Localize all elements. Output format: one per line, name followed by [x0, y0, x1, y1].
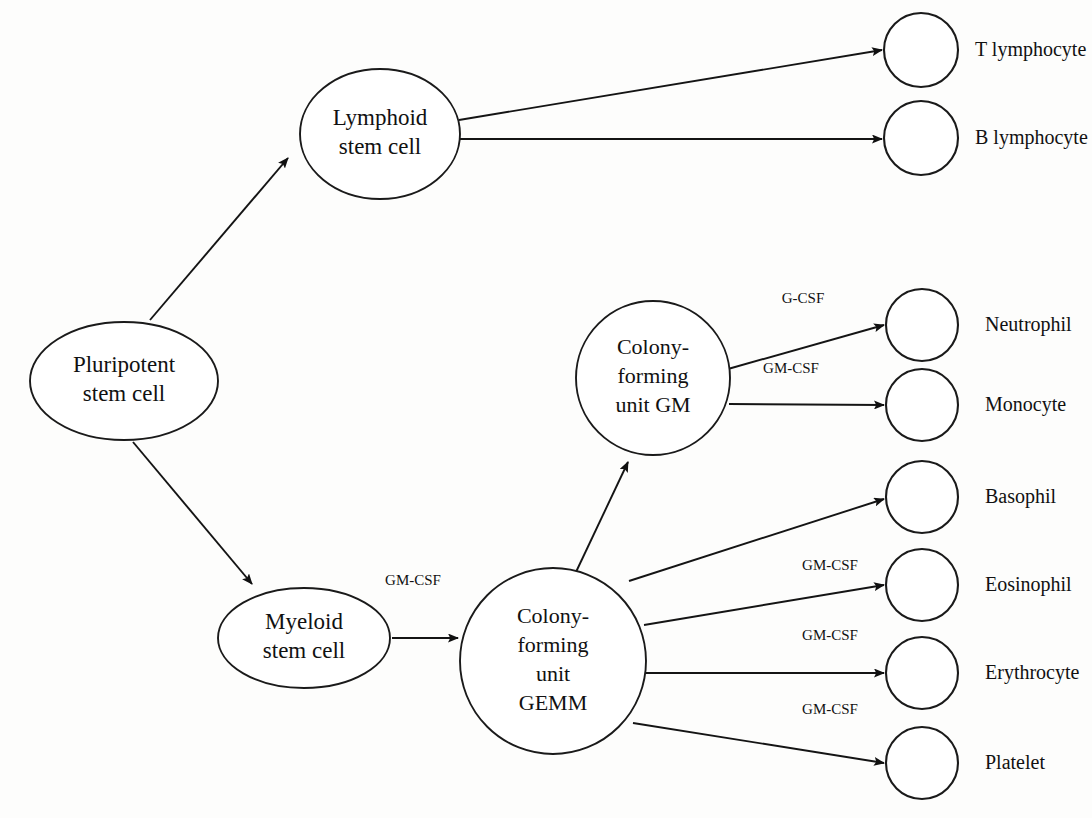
cell-platelet[interactable]: Platelet — [886, 727, 1045, 799]
node-label-pluripotent: stem cell — [83, 381, 165, 406]
cell-label-t-lymphocyte: T lymphocyte — [975, 38, 1086, 61]
cell-label-b-lymphocyte: B lymphocyte — [975, 126, 1088, 149]
cell-neutrophil[interactable]: Neutrophil — [886, 289, 1072, 361]
cell-circle-eosinophil — [886, 549, 958, 621]
cell-eosinophil[interactable]: Eosinophil — [886, 549, 1072, 621]
cell-label-neutrophil: Neutrophil — [985, 313, 1072, 336]
node-label-lymphoid: stem cell — [339, 134, 421, 159]
nodes-layer: Pluripotentstem cellLymphoidstem cellMye… — [30, 69, 730, 754]
edge-pluripotent-to-myeloid — [133, 442, 252, 584]
growth-factor-label-gemm-to-erythrocyte: GM-CSF — [802, 627, 858, 643]
node-label-cfu-gm: unit GM — [615, 392, 690, 417]
growth-factor-label-gm-to-monocyte: GM-CSF — [763, 360, 819, 376]
cell-circle-t-lymphocyte — [884, 13, 958, 87]
growth-factor-label-gm-to-neutrophil: G-CSF — [782, 290, 825, 306]
cell-circle-b-lymphocyte — [884, 101, 958, 175]
cell-t-lymphocyte[interactable]: T lymphocyte — [884, 13, 1086, 87]
growth-factor-label-gemm-to-eosinophil: GM-CSF — [802, 557, 858, 573]
cell-label-platelet: Platelet — [985, 751, 1045, 773]
cell-label-erythrocyte: Erythrocyte — [985, 661, 1080, 684]
node-label-pluripotent: Pluripotent — [73, 352, 176, 377]
node-label-cfu-gemm: forming — [518, 632, 589, 657]
cell-circle-platelet — [886, 727, 958, 799]
edge-pluripotent-to-lymphoid — [150, 158, 288, 320]
node-label-cfu-gemm: Colony- — [517, 603, 589, 628]
node-label-cfu-gm: forming — [618, 363, 689, 388]
edge-gm-to-monocyte — [729, 404, 884, 405]
cell-label-eosinophil: Eosinophil — [985, 573, 1072, 596]
node-label-cfu-gm: Colony- — [617, 334, 689, 359]
cells-layer: T lymphocyteB lymphocyteNeutrophilMonocy… — [884, 13, 1088, 799]
cell-basophil[interactable]: Basophil — [886, 461, 1057, 533]
node-label-myeloid: stem cell — [263, 638, 345, 663]
node-label-myeloid: Myeloid — [265, 609, 343, 634]
cell-label-basophil: Basophil — [985, 485, 1057, 508]
cell-circle-neutrophil — [886, 289, 958, 361]
growth-factor-label-gemm-to-platelet: GM-CSF — [802, 701, 858, 717]
node-cfu-gm[interactable]: Colony-formingunit GM — [576, 301, 730, 455]
node-pluripotent[interactable]: Pluripotentstem cell — [30, 322, 218, 440]
cell-circle-basophil — [886, 461, 958, 533]
diagram-canvas: Pluripotentstem cellLymphoidstem cellMye… — [0, 0, 1092, 818]
node-lymphoid[interactable]: Lymphoidstem cell — [300, 69, 460, 199]
edge-gemm-to-gm — [576, 462, 628, 572]
node-label-cfu-gemm: unit — [536, 661, 570, 686]
cell-monocyte[interactable]: Monocyte — [886, 369, 1066, 441]
edge-lymphoid-to-t — [459, 50, 882, 120]
hematopoiesis-diagram: Pluripotentstem cellLymphoidstem cellMye… — [0, 0, 1092, 818]
cell-circle-erythrocyte — [886, 637, 958, 709]
node-label-lymphoid: Lymphoid — [333, 105, 428, 130]
cell-erythrocyte[interactable]: Erythrocyte — [886, 637, 1080, 709]
cell-label-monocyte: Monocyte — [985, 393, 1066, 416]
edge-gemm-to-eosinophil — [644, 585, 884, 625]
node-cfu-gemm[interactable]: Colony-formingunitGEMM — [460, 568, 646, 754]
edge-gemm-to-platelet — [633, 723, 884, 763]
growth-factor-label-myeloid-to-gemm: GM-CSF — [385, 572, 441, 588]
cell-b-lymphocyte[interactable]: B lymphocyte — [884, 101, 1088, 175]
node-myeloid[interactable]: Myeloidstem cell — [218, 588, 390, 688]
node-label-cfu-gemm: GEMM — [519, 690, 587, 715]
cell-circle-monocyte — [886, 369, 958, 441]
